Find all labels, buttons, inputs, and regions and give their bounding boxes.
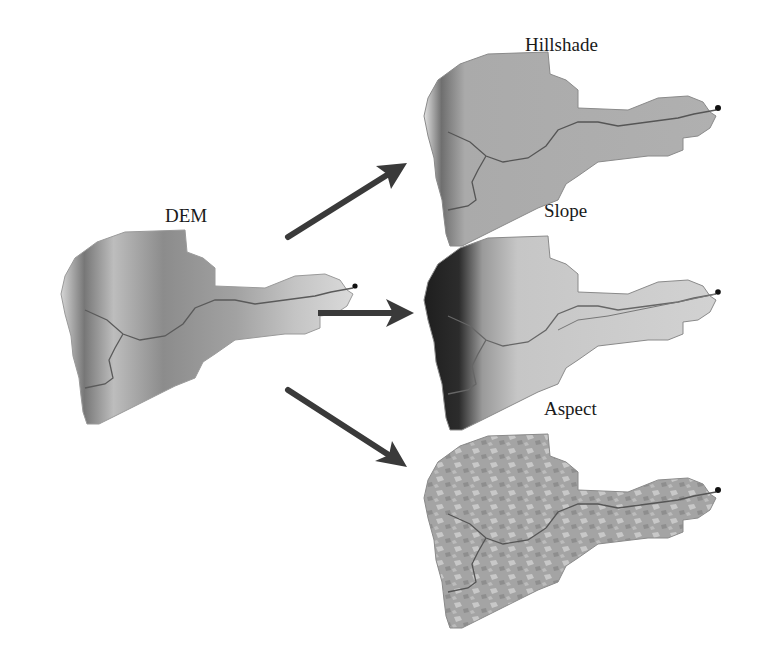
arrow-to-hillshade-icon [288, 163, 407, 237]
arrow-to-slope-icon [318, 299, 414, 327]
arrow-to-aspect-icon [288, 390, 407, 467]
arrows-layer [0, 0, 779, 661]
